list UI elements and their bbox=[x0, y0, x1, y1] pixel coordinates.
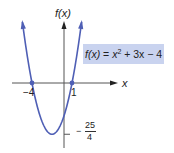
equation-exponent: 2 bbox=[117, 48, 121, 55]
y-axis-arrow bbox=[62, 21, 67, 29]
equation-rest: + 3x − 4 bbox=[124, 48, 162, 60]
root-point bbox=[70, 81, 75, 86]
y-tick-denominator: 4 bbox=[87, 132, 92, 142]
curve-arrow-left bbox=[21, 20, 26, 29]
root-point bbox=[30, 81, 35, 86]
y-tick-numerator: 25 bbox=[85, 120, 95, 130]
function-equation-label: f(x) = x2 + 3x − 4 bbox=[83, 44, 164, 64]
root-label: −4 bbox=[23, 87, 35, 98]
curve-arrow-right bbox=[78, 20, 83, 29]
x-axis-arrow bbox=[110, 81, 118, 86]
root-label: 1 bbox=[71, 87, 77, 98]
x-axis-label: x bbox=[121, 77, 128, 89]
equation-equals: = bbox=[103, 48, 109, 60]
equation-lhs: f(x) bbox=[85, 48, 100, 60]
y-tick-sign: − bbox=[76, 126, 81, 136]
y-axis-label: f(x) bbox=[55, 7, 71, 19]
parabola-curve bbox=[22, 22, 81, 134]
